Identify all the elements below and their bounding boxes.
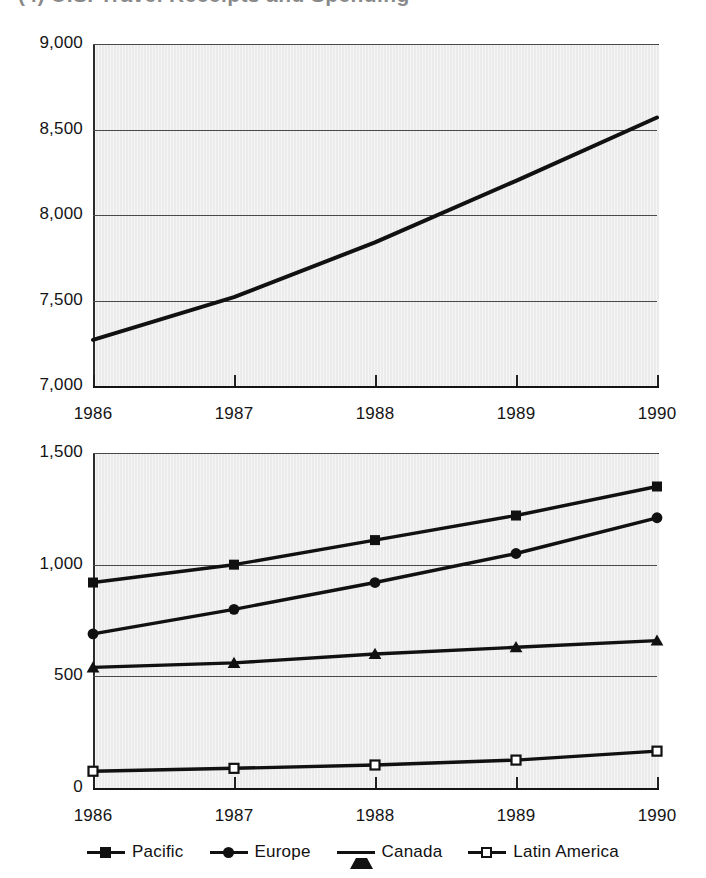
legend-item-europe[interactable]: Europe <box>210 842 311 862</box>
data-point-europe <box>229 604 240 615</box>
legend-label: Pacific <box>132 842 183 862</box>
legend-marker-filled-circle-icon <box>210 845 248 859</box>
data-point-europe <box>511 548 522 559</box>
series-layer-bottom <box>0 0 706 838</box>
chart-legend: PacificEuropeCanadaLatin America <box>0 838 706 866</box>
legend-item-pacific[interactable]: Pacific <box>87 842 183 862</box>
data-point-latin-america <box>230 764 239 773</box>
data-point-pacific <box>652 482 662 492</box>
data-point-pacific <box>88 578 98 588</box>
data-point-latin-america <box>512 756 521 765</box>
chart-bottom: 05001,0001,500 19861987198819891990 <box>0 0 706 838</box>
data-point-latin-america <box>371 760 380 769</box>
data-point-pacific <box>370 535 380 545</box>
legend-marker-filled-square-icon <box>87 845 125 859</box>
series-line-pacific <box>93 487 657 583</box>
data-point-latin-america <box>89 767 98 776</box>
legend-marker-open-square-icon <box>468 845 506 859</box>
data-point-europe <box>370 577 381 588</box>
legend-label: Canada <box>382 842 443 862</box>
legend-label: Europe <box>255 842 311 862</box>
legend-marker-filled-triangle-icon <box>337 845 375 859</box>
data-point-europe <box>88 629 99 640</box>
legend-key-glyph <box>223 847 234 858</box>
data-point-europe <box>652 512 663 523</box>
chart-page: (4) U.S. Travel Receipts and Spending 7,… <box>0 0 706 878</box>
data-point-latin-america <box>653 747 662 756</box>
legend-key-glyph <box>100 847 111 858</box>
legend-item-latin-america[interactable]: Latin America <box>468 842 619 862</box>
legend-key-glyph <box>481 847 492 858</box>
legend-label: Latin America <box>513 842 619 862</box>
legend-item-canada[interactable]: Canada <box>337 842 443 862</box>
legend-key-glyph <box>350 847 373 869</box>
data-point-pacific <box>511 511 521 521</box>
data-point-pacific <box>229 560 239 570</box>
